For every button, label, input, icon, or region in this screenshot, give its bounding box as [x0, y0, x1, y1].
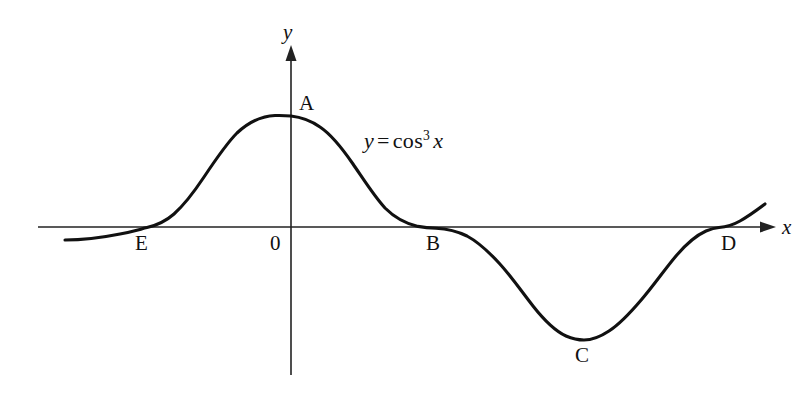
equation-function: cos — [393, 128, 423, 153]
point-label-a: A — [299, 93, 314, 114]
point-label-e: E — [135, 233, 148, 254]
x-axis-label: x — [782, 217, 791, 238]
y-axis — [286, 45, 297, 375]
x-axis-arrowhead — [760, 222, 776, 233]
equation-operator: = — [374, 128, 393, 153]
equation-argument: x — [430, 128, 443, 153]
origin-label: 0 — [270, 233, 281, 254]
y-axis-arrowhead — [286, 45, 297, 61]
equation-lhs: y — [364, 128, 374, 153]
point-label-c: C — [575, 345, 589, 366]
point-label-d: D — [721, 233, 736, 254]
equation-label: y=cos3x — [364, 130, 443, 152]
point-label-b: B — [426, 233, 440, 254]
y-axis-label: y — [283, 22, 292, 43]
graph-canvas — [0, 0, 809, 406]
cos-cubed-graph-figure: y x 0 A B C D E y=cos3x — [0, 0, 809, 406]
